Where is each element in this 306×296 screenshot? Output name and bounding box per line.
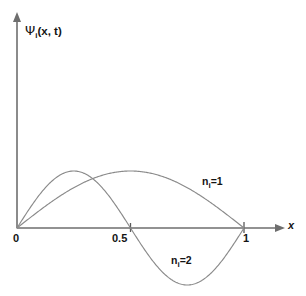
plot-canvas bbox=[0, 0, 306, 296]
x-axis-label: x bbox=[288, 220, 294, 231]
n2-value: 2 bbox=[186, 254, 192, 266]
tick-label-1: 1 bbox=[243, 233, 249, 244]
y-axis bbox=[13, 12, 21, 228]
wavefunction-figure: Ψi(x, t) x 0 0.5 1 ni=1 ni=2 bbox=[0, 0, 306, 296]
y-axis-arrow-icon bbox=[13, 12, 21, 22]
psi-symbol: Ψ bbox=[25, 23, 35, 38]
x-axis bbox=[17, 224, 285, 232]
psi-arguments: (x, t) bbox=[37, 25, 61, 37]
tick-label-0: 0 bbox=[13, 233, 19, 244]
n1-value: 1 bbox=[217, 175, 223, 187]
x-axis-arrow-icon bbox=[275, 224, 285, 232]
curve-label-n2: ni=2 bbox=[171, 255, 192, 269]
y-axis-label: Ψi(x, t) bbox=[25, 24, 62, 40]
curve-label-n1: ni=1 bbox=[202, 176, 223, 190]
tick-label-0.5: 0.5 bbox=[112, 233, 127, 244]
